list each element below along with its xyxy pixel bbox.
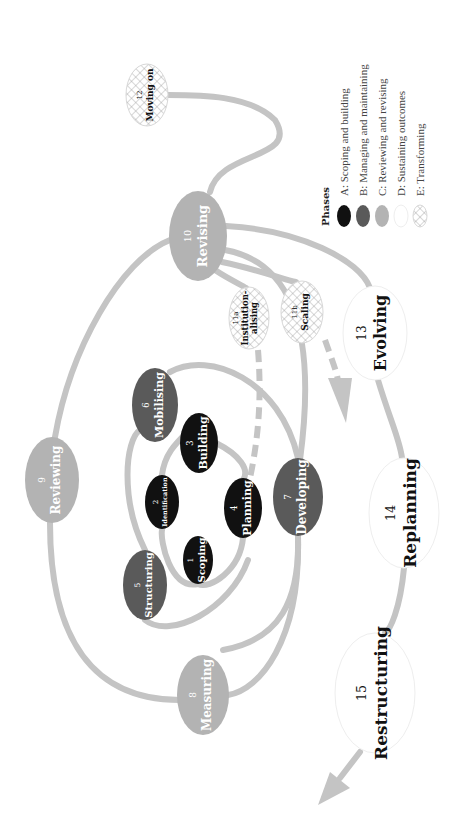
node-revising: 10Revising	[169, 191, 227, 281]
node-number: 3	[185, 440, 195, 445]
node-number: 12	[136, 91, 144, 100]
legend-swatch	[394, 205, 408, 227]
phase-spiral-diagram: 1Scoping2Identification3Building4Plannin…	[0, 0, 464, 833]
arrowhead-scaling	[328, 378, 352, 423]
node-restructuring: 15Restructuring	[335, 626, 415, 760]
node-mobilising: 6Mobilising	[132, 368, 178, 442]
node-label: Evolving	[371, 295, 390, 371]
node-label: Reviewing	[49, 445, 63, 514]
node-label: Measuring	[200, 658, 214, 731]
node-reviewing: 9Reviewing	[25, 437, 79, 523]
node-label-line2: alising	[249, 302, 259, 334]
node-label: Identification	[161, 477, 169, 527]
legend-item-e: E: Transforming	[413, 123, 427, 227]
node-label: Developing	[295, 459, 309, 535]
node-label: Replanning	[400, 458, 420, 568]
legend-label: E: Transforming	[414, 123, 426, 196]
legend-swatch	[337, 205, 351, 227]
node-replanning: 14Replanning	[369, 458, 439, 568]
node-label: Planning	[241, 480, 254, 536]
node-structuring: 5Structuring	[123, 550, 167, 620]
legend-item-a: A: Scoping and building	[337, 88, 351, 227]
phases-legend: PhasesA: Scoping and buildingB: Managing…	[320, 64, 427, 227]
node-label: Moving on	[145, 68, 155, 122]
node-label: Mobilising	[153, 372, 166, 438]
node-number: 14	[383, 505, 398, 521]
node-number: 13	[355, 325, 369, 340]
node-identification: 2Identification	[145, 475, 179, 529]
node-label: Scaling	[300, 293, 310, 331]
node-scoping: 1Scoping	[183, 536, 213, 584]
node-label: Restructuring	[371, 626, 391, 760]
node-number: 2	[152, 500, 160, 504]
legend-label: B: Managing and maintaining	[357, 64, 369, 196]
node-moving-on: 12Moving on	[126, 64, 168, 126]
node-number: 8	[188, 692, 198, 698]
node-number: 7	[283, 494, 293, 500]
node-number: 5	[133, 582, 142, 587]
node-institution: 11aInstitution-alising	[229, 287, 269, 349]
node-number: 11b	[291, 305, 299, 319]
legend-swatch	[356, 205, 370, 227]
node-building: 3Building	[180, 413, 218, 473]
track-to-institutionalising	[215, 270, 246, 288]
node-label: Scoping	[196, 537, 207, 582]
node-number: 9	[37, 477, 47, 483]
legend-swatch	[413, 205, 427, 227]
legend-item-c: C: Reviewing and revising	[375, 78, 389, 227]
node-label: Structuring	[143, 552, 154, 618]
legend-item-b: B: Managing and maintaining	[356, 64, 370, 227]
legend-label: A: Scoping and building	[338, 88, 350, 196]
legend-item-d: D: Sustaining outcomes	[394, 91, 408, 227]
node-number: 1	[186, 558, 195, 563]
node-number: 15	[354, 685, 369, 701]
node-label: Building	[197, 416, 210, 470]
legend-swatch	[375, 205, 389, 227]
node-number: 4	[229, 505, 239, 510]
legend-label: D: Sustaining outcomes	[395, 91, 407, 196]
dashed-tracks	[250, 340, 338, 478]
dashed-scaling-arrow	[325, 340, 338, 382]
track-moving-on	[168, 95, 280, 192]
node-evolving: 13Evolving	[343, 286, 407, 380]
node-number: 6	[141, 402, 151, 407]
node-number: 10	[182, 230, 193, 242]
legend-label: C: Reviewing and revising	[376, 78, 388, 196]
node-label: Revising	[195, 205, 210, 267]
arrowhead-restructuring	[318, 772, 350, 805]
node-developing: 7Developing	[273, 458, 323, 536]
legend-title: Phases	[320, 187, 331, 226]
node-scaling: 11bScaling	[281, 281, 323, 343]
node-measuring: 8Measuring	[177, 655, 229, 735]
node-planning: 4Planning	[224, 478, 262, 538]
dashed-institutionalising-to-planning	[250, 350, 260, 478]
